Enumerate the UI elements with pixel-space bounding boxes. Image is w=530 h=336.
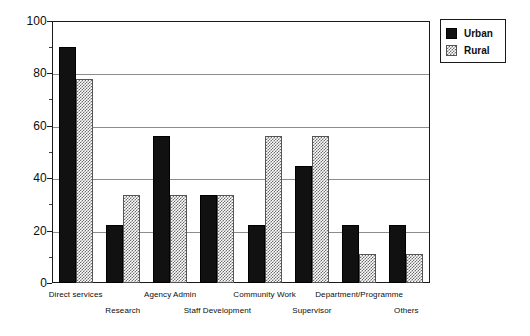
x-label-department-programme: Department/Programme — [299, 291, 419, 299]
bar-chart: 100 80 60 40 20 0 Direct servicesResearc… — [0, 0, 530, 336]
bar-rural-others — [406, 254, 423, 283]
bar-rural-direct-services — [76, 79, 93, 283]
y-tick-label-0: 0 — [7, 277, 47, 289]
chart-legend: Urban Rural — [440, 19, 506, 63]
legend-label-rural: Rural — [464, 46, 490, 56]
bar-urban-direct-services — [59, 47, 76, 283]
bar-urban-community-work — [248, 225, 265, 283]
legend-swatch-rural-icon — [446, 45, 457, 56]
y-tick-label-20: 20 — [7, 225, 47, 237]
bar-urban-supervisor — [295, 166, 312, 283]
bar-rural-supervisor — [312, 136, 329, 283]
bar-rural-staff-development — [217, 195, 234, 283]
x-label-others: Others — [346, 307, 466, 315]
bar-rural-department-programme — [359, 254, 376, 283]
bar-rural-research — [123, 195, 140, 283]
bar-urban-department-programme — [342, 225, 359, 283]
y-tick-mark-0 — [47, 283, 52, 284]
bar-urban-agency-admin — [153, 136, 170, 283]
legend-item-rural: Rural — [446, 42, 501, 59]
y-tick-label-40: 40 — [7, 172, 47, 184]
y-tick-label-60: 60 — [7, 120, 47, 132]
bar-rural-agency-admin — [170, 195, 187, 283]
legend-swatch-urban-icon — [446, 28, 457, 39]
legend-label-urban: Urban — [464, 29, 493, 39]
bar-urban-research — [106, 225, 123, 283]
y-tick-label-80: 80 — [7, 67, 47, 79]
bar-urban-staff-development — [200, 195, 217, 283]
y-tick-label-100: 100 — [7, 15, 47, 27]
bar-series-container — [52, 21, 430, 283]
legend-item-urban: Urban — [446, 25, 501, 42]
bar-urban-others — [389, 225, 406, 283]
bar-rural-community-work — [265, 136, 282, 283]
